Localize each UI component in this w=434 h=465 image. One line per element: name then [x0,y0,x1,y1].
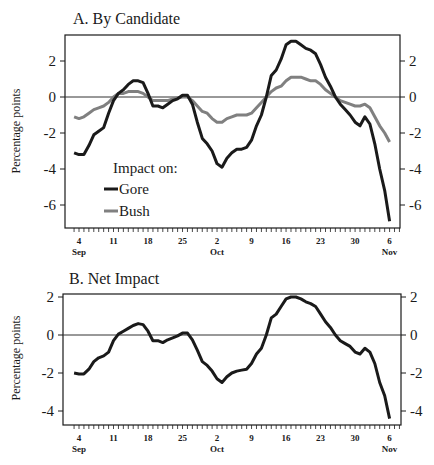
y-tick-label: -4 [410,403,423,419]
legend-bush-label: Bush [119,203,150,219]
x-month-label: Oct [210,247,224,257]
panel-b-y-axis: 2200-2-2-4-4 [42,289,423,419]
panel-a-frame [65,35,400,228]
y-tick-label: -6 [44,197,57,213]
x-tick-label: 4 [77,236,82,246]
panel-a-y-axis: 2200-2-2-4-4-6-6 [44,53,422,213]
x-tick-label: 18 [144,236,154,246]
x-tick-label: 25 [178,236,188,246]
x-tick-label: 23 [316,433,326,443]
x-tick-label: 6 [387,433,392,443]
legend: Impact on: Gore Bush [104,160,178,219]
x-tick-label: 4 [77,433,82,443]
x-tick-label: 18 [144,433,154,443]
y-tick-label: 0 [409,89,417,105]
x-tick-label: 16 [282,236,292,246]
y-tick-label: 2 [49,53,57,69]
x-month-label: Sep [72,247,86,257]
x-tick-label: 23 [316,236,326,246]
y-tick-label: 0 [49,89,57,105]
x-tick-label: 30 [351,433,361,443]
legend-gore-label: Gore [119,181,149,197]
x-month-label: Nov [382,247,398,257]
y-tick-label: -2 [42,365,55,381]
figure: A. By Candidate 2200-2-2-4-4-6-6 4111825… [0,0,434,465]
panel-b-x-axis: 4111825291623306SepOctNov [72,425,399,454]
x-tick-label: 16 [282,433,292,443]
x-tick-label: 9 [249,236,254,246]
panel-a-title: A. By Candidate [73,10,180,28]
y-tick-label: -2 [44,125,57,141]
y-tick-label: -4 [44,161,57,177]
panel-a-ylabel: Percentage points [9,88,23,173]
panel-b-ylabel: Percentage points [9,315,23,400]
x-tick-label: 2 [215,236,220,246]
x-tick-label: 11 [109,236,118,246]
x-tick-label: 6 [387,236,392,246]
y-tick-label: -4 [42,403,55,419]
x-tick-label: 25 [178,433,188,443]
net-impact-line [74,297,390,419]
x-tick-label: 11 [109,433,118,443]
y-tick-label: 0 [410,327,418,343]
y-tick-label: 2 [409,53,417,69]
y-tick-label: 2 [410,289,418,305]
x-month-label: Oct [210,444,224,454]
x-tick-label: 30 [351,236,361,246]
y-tick-label: -4 [409,161,422,177]
bush-line [74,77,390,142]
panel-b-plot: 2200-2-2-4-4 4111825291623306SepOctNov [42,289,423,454]
y-tick-label: -2 [409,125,422,141]
y-tick-label: -2 [410,365,423,381]
legend-title: Impact on: [113,160,178,176]
x-month-label: Nov [382,444,398,454]
panel-a-x-axis: 4111825291623306SepOctNov [72,228,399,257]
panel-b-frame [63,294,401,425]
y-tick-label: 0 [47,327,55,343]
x-tick-label: 2 [215,433,220,443]
y-tick-label: -6 [409,197,422,213]
x-month-label: Sep [72,444,86,454]
panel-a-plot: 2200-2-2-4-4-6-6 4111825291623306SepOctN… [44,35,422,257]
panel-b-title: B. Net Impact [69,270,160,288]
x-tick-label: 9 [249,433,254,443]
y-tick-label: 2 [47,289,55,305]
